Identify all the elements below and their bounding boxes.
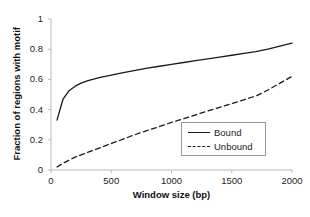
chart-figure: 00.20.40.60.81 0500100015002000 Fraction… [0, 0, 310, 217]
legend-label-unbound: Unbound [211, 142, 253, 152]
y-tick-label: 1 [3, 14, 43, 24]
page-edge-artifact [0, 210, 310, 217]
legend-line-dashed-icon [187, 142, 211, 152]
y-tick-label: 0 [3, 165, 43, 175]
x-tick-label: 2000 [272, 176, 310, 186]
x-tick-label: 1000 [152, 176, 192, 186]
y-axis-title: Fraction of regions with motif [12, 14, 22, 174]
legend-item-unbound: Unbound [182, 140, 265, 154]
x-tick-label: 500 [91, 176, 131, 186]
legend-item-bound: Bound [182, 126, 265, 140]
x-tick-label: 0 [31, 176, 71, 186]
x-tick-label: 1500 [212, 176, 252, 186]
y-tick-label: 0.6 [3, 74, 43, 84]
legend-box: Bound Unbound [181, 122, 266, 156]
y-tick-label: 0.2 [3, 135, 43, 145]
y-tick-label: 0.8 [3, 44, 43, 54]
y-tick-label: 0.4 [3, 105, 43, 115]
x-axis-title: Window size (bp) [51, 190, 292, 200]
series-line-bound [57, 43, 292, 120]
legend-line-solid-icon [187, 128, 211, 138]
legend-label-bound: Bound [211, 128, 241, 138]
